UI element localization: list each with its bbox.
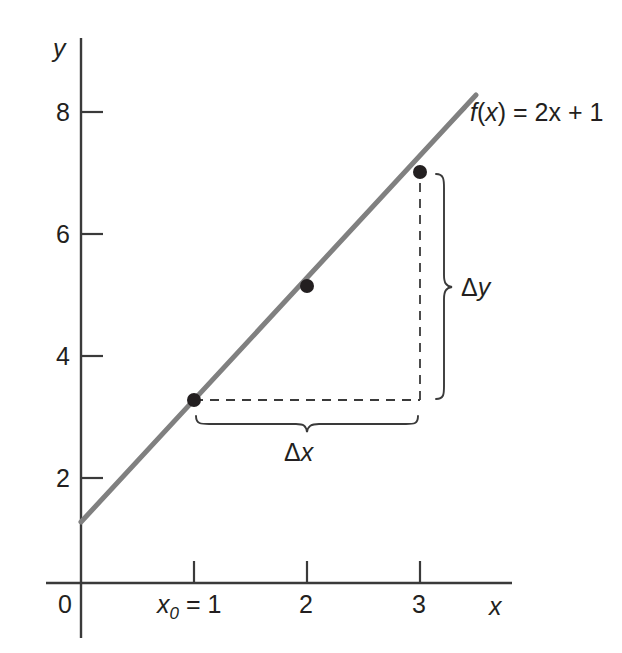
function-line (81, 95, 476, 522)
x0-subscript: 0 (170, 604, 179, 623)
y-tick-label-4: 4 (56, 344, 70, 369)
origin-label: 0 (58, 592, 72, 617)
x-tick-label-x0: x0 = 1 (157, 592, 221, 622)
y-axis-label: y (53, 36, 66, 61)
delta-y-label: Δy (461, 275, 490, 300)
delta-x-variable: x (301, 438, 314, 466)
function-expression-rest: ) = 2x + 1 (498, 98, 604, 126)
data-point-2-5 (300, 279, 314, 293)
delta-x-symbol: Δ (284, 438, 301, 466)
delta-x-brace (196, 416, 418, 432)
data-point-1-3 (187, 393, 201, 407)
y-tick-label-6: 6 (56, 222, 70, 247)
x-axis-label: x (489, 594, 502, 619)
delta-y-brace (436, 174, 452, 399)
x-tick-label-2y: 2 (56, 466, 70, 491)
delta-y-variable: y (478, 273, 491, 301)
function-label: f(x) = 2x + 1 (470, 100, 603, 125)
x-tick-label-2: 2 (299, 592, 313, 617)
x0-variable: x (157, 590, 170, 618)
function-argument: x (485, 98, 498, 126)
data-point-3-7 (413, 165, 427, 179)
function-name: f (470, 98, 477, 126)
y-tick-label-8: 8 (56, 100, 70, 125)
x0-equals-one: = 1 (179, 590, 221, 618)
x-tick-label-3: 3 (412, 592, 426, 617)
delta-x-label: Δx (284, 440, 313, 465)
delta-y-symbol: Δ (461, 273, 478, 301)
figure-container: y x 0 8 6 4 2 x0 = 1 2 3 Δy Δx f(x) = 2x… (0, 0, 622, 653)
